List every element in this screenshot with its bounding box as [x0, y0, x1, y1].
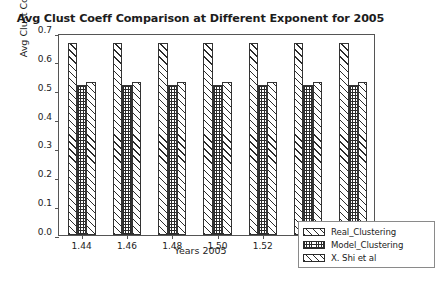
bar-real-clustering [339, 43, 348, 235]
bar-group [249, 35, 277, 235]
bar-x-shi-et-al [358, 82, 367, 235]
bar-x-shi-et-al [86, 82, 95, 235]
chart-title: Avg Clust Coeff Comparison at Different … [0, 12, 401, 25]
bar-x-shi-et-al [222, 82, 231, 235]
bar-model-clustering [213, 85, 222, 235]
plot-area: Avg Clust Coeff 0.00.10.20.30.40.50.60.7… [58, 34, 375, 236]
bar-x-shi-et-al [132, 82, 141, 235]
x-tick-mark [172, 235, 173, 239]
bar-model-clustering [122, 85, 131, 235]
bar-real-clustering [294, 43, 303, 235]
bar-group [339, 35, 367, 235]
bar-real-clustering [113, 43, 122, 235]
x-tick-mark [263, 235, 264, 239]
bar-model-clustering [349, 85, 358, 235]
bar-real-clustering [158, 43, 167, 235]
bar-x-shi-et-al [267, 82, 276, 235]
y-tick-mark [55, 179, 59, 180]
x-tick-mark [82, 235, 83, 239]
bar-real-clustering [249, 43, 258, 235]
x-axis-label: Years 2005 [0, 245, 401, 256]
y-tick-mark [55, 63, 59, 64]
bar-group [294, 35, 322, 235]
bar-group [203, 35, 231, 235]
bar-real-clustering [203, 43, 212, 235]
bar-group [113, 35, 141, 235]
bar-x-shi-et-al [177, 82, 186, 235]
bar-model-clustering [168, 85, 177, 235]
bar-model-clustering [303, 85, 312, 235]
legend-swatch [303, 228, 325, 236]
bar-x-shi-et-al [313, 82, 322, 235]
y-axis-label: Avg Clust Coeff [18, 0, 29, 81]
y-tick-mark [55, 92, 59, 93]
bar-group [158, 35, 186, 235]
y-tick-mark [55, 237, 59, 238]
y-tick-mark [55, 208, 59, 209]
legend-item: Real_Clustering [303, 225, 430, 238]
bar-real-clustering [68, 43, 77, 235]
x-tick-mark [127, 235, 128, 239]
y-tick-mark [55, 35, 59, 36]
y-tick-mark [55, 150, 59, 151]
bar-model-clustering [77, 85, 86, 235]
bar-group [68, 35, 96, 235]
y-tick-mark [55, 121, 59, 122]
bar-model-clustering [258, 85, 267, 235]
x-tick-mark [218, 235, 219, 239]
legend-label: Real_Clustering [331, 227, 396, 237]
